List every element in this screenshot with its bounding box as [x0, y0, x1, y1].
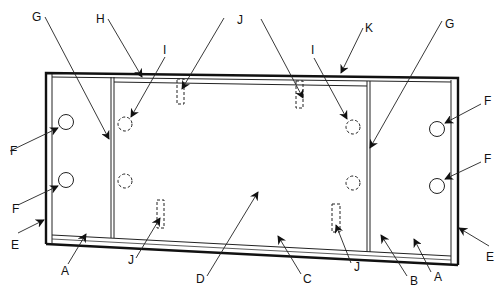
label-a-left: A — [61, 264, 69, 278]
label-k: K — [365, 21, 373, 35]
hidden-hole-left-bottom — [118, 174, 132, 188]
bottom-rail-inner — [52, 235, 451, 256]
label-h: H — [96, 12, 105, 26]
label-j-top: J — [237, 13, 243, 27]
label-f-right-bottom: F — [484, 152, 491, 166]
leader-k — [341, 28, 363, 73]
label-a-right: A — [434, 270, 442, 284]
label-f-right-top: F — [484, 94, 491, 108]
leader-e-right — [459, 228, 489, 246]
label-b: B — [410, 274, 418, 288]
hidden-hole-left-top — [118, 117, 132, 131]
leader-h — [108, 19, 142, 77]
hidden-holes — [118, 117, 360, 190]
label-j-bottom-left: J — [128, 253, 134, 267]
label-i-right: I — [311, 43, 314, 57]
leader-a-left — [68, 234, 86, 264]
hidden-slots — [157, 79, 340, 232]
leader-j-bottom-left — [136, 218, 160, 258]
leader-a-right — [414, 239, 431, 272]
label-f-left-bottom: F — [12, 202, 19, 216]
cross-members — [111, 77, 370, 252]
leader-f-right-top — [445, 104, 481, 123]
label-e-left: E — [11, 238, 19, 252]
leader-g-right — [370, 21, 442, 148]
leader-d — [207, 192, 258, 276]
leader-i-left — [131, 57, 165, 117]
holes — [59, 115, 445, 194]
label-g-left: G — [32, 10, 41, 24]
label-j-bottom-right: J — [354, 260, 360, 274]
slot-bottom-left — [157, 200, 164, 228]
leader-f-right-bottom — [445, 162, 481, 179]
label-e-right: E — [486, 250, 494, 264]
label-d: D — [196, 272, 205, 286]
hole-left-bottom — [59, 173, 74, 188]
hidden-hole-right-top — [346, 120, 360, 134]
hole-right-bottom — [430, 179, 445, 194]
frame-diagram: G H I J K I G F F E A J D C J B A E F F — [0, 0, 502, 296]
leader-j-bottom-right — [336, 225, 351, 263]
hole-left-top — [59, 115, 74, 130]
label-i-left: I — [163, 43, 166, 57]
leader-e-left — [18, 220, 44, 233]
bottom-rail-mid — [52, 239, 451, 260]
leader-b — [381, 235, 407, 276]
leader-i-right — [314, 58, 347, 119]
label-c: C — [303, 272, 312, 286]
hidden-hole-right-bottom — [346, 176, 360, 190]
slot-bottom-right — [332, 204, 340, 232]
label-g-right: G — [445, 17, 454, 31]
leader-j-top-right — [261, 19, 303, 98]
hole-right-top — [430, 122, 445, 137]
leader-j-top-left — [182, 18, 224, 89]
label-f-left-top: F — [10, 144, 17, 158]
leaders — [10, 17, 489, 276]
